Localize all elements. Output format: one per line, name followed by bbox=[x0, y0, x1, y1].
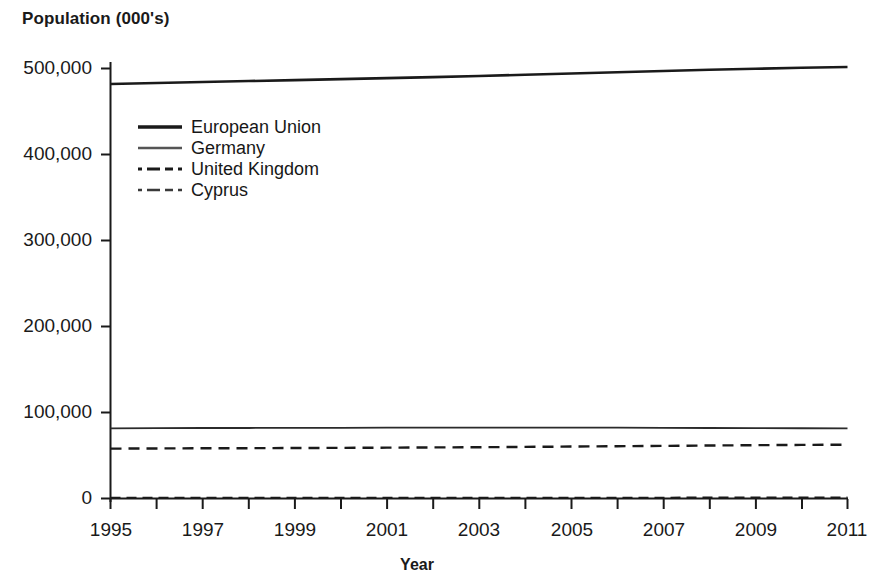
x-tick-label: 1995 bbox=[66, 520, 156, 539]
legend-item-label: United Kingdom bbox=[191, 160, 319, 178]
series-line-european-union bbox=[111, 67, 848, 84]
x-tick-label: 2007 bbox=[619, 520, 709, 539]
legend-item: United Kingdom bbox=[138, 158, 321, 179]
line-dashdot-thin-icon bbox=[138, 183, 182, 197]
x-tick-label: 1999 bbox=[250, 520, 340, 539]
legend-item: European Union bbox=[138, 116, 321, 137]
legend-item: Germany bbox=[138, 137, 321, 158]
x-tick-label: 2009 bbox=[711, 520, 801, 539]
x-tick-label: 1997 bbox=[158, 520, 248, 539]
series-line-united-kingdom bbox=[111, 445, 848, 449]
legend-item-label: European Union bbox=[191, 118, 321, 136]
series-line-germany bbox=[111, 428, 848, 429]
y-tick-label: 100,000 bbox=[23, 402, 92, 421]
y-tick-label: 300,000 bbox=[23, 230, 92, 249]
plot-area bbox=[0, 0, 882, 586]
line-dashdot-thick-icon bbox=[138, 162, 182, 176]
x-tick-label: 2005 bbox=[527, 520, 617, 539]
legend-item: Cyprus bbox=[138, 179, 321, 200]
legend-item-label: Cyprus bbox=[191, 181, 248, 199]
y-tick-label: 0 bbox=[81, 488, 92, 507]
x-tick-label: 2001 bbox=[342, 520, 432, 539]
y-tick-label: 500,000 bbox=[23, 58, 92, 77]
line-solid-thin-icon bbox=[138, 141, 182, 155]
y-tick-label: 200,000 bbox=[23, 316, 92, 335]
x-tick-label: 2011 bbox=[802, 520, 882, 539]
x-axis-title: Year bbox=[0, 556, 882, 574]
x-axis-ticks bbox=[111, 499, 848, 509]
population-line-chart: Population (000's) bbox=[0, 0, 882, 586]
chart-legend: European Union Germany United Kingdom Cy… bbox=[138, 116, 321, 200]
y-tick-label: 400,000 bbox=[23, 144, 92, 163]
legend-item-label: Germany bbox=[191, 139, 265, 157]
line-solid-thick-icon bbox=[138, 120, 182, 134]
x-tick-label: 2003 bbox=[434, 520, 524, 539]
